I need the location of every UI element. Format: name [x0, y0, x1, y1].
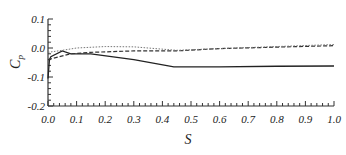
y-tick-label: 0.0 — [31, 42, 45, 54]
x-axis-title: S — [185, 132, 192, 147]
series-dotted — [48, 45, 334, 53]
x-tick-label: 0.4 — [156, 113, 170, 125]
x-tick-label: 0.7 — [241, 113, 255, 125]
x-tick-label: 1.0 — [327, 113, 341, 125]
x-tick-label: 0.0 — [41, 113, 55, 125]
x-tick-label: 0.9 — [299, 113, 313, 125]
series-solid — [48, 51, 334, 79]
x-tick-label: 0.5 — [184, 113, 198, 125]
y-tick-label: 0.1 — [31, 13, 45, 25]
x-tick-label: 0.6 — [213, 113, 227, 125]
axes — [48, 19, 334, 106]
x-tick-label: 0.3 — [127, 113, 141, 125]
ticks: 0.00.10.20.30.40.50.60.70.80.91.00.10.0-… — [28, 13, 342, 125]
data-series — [48, 45, 334, 79]
y-tick-label: -0.2 — [28, 100, 46, 112]
x-tick-label: 0.8 — [270, 113, 284, 125]
y-axis-title: Cp — [8, 55, 25, 69]
x-tick-label: 0.1 — [70, 113, 84, 125]
x-tick-label: 0.2 — [98, 113, 112, 125]
y-tick-label: -0.1 — [28, 71, 45, 83]
cp-chart: 0.00.10.20.30.40.50.60.70.80.91.00.10.0-… — [0, 0, 346, 155]
